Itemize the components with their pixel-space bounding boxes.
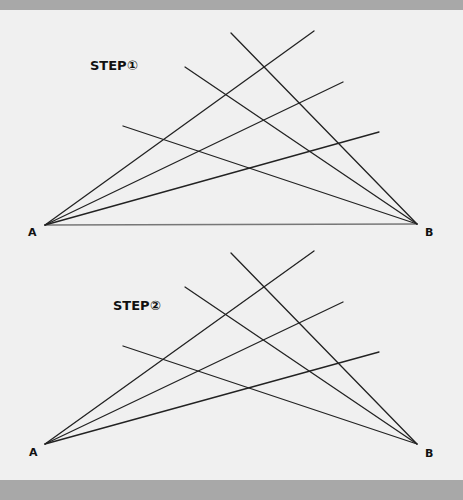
line-to-a-3 [45,132,379,225]
line-to-b-2 [185,287,417,444]
line-to-a-3 [45,352,379,444]
line-to-b-1 [231,253,417,444]
diagram-canvas [0,0,463,500]
line-to-b-1 [231,33,417,224]
step-1-point-a-label: A [28,227,37,238]
step-1-title: STEP① [90,59,138,72]
step-1-point-b-label: B [425,227,433,238]
step-2-figure [45,251,417,444]
step-2-title: STEP② [113,299,161,312]
baseline-ab [45,224,417,225]
line-to-a-1 [45,31,314,225]
line-to-a-2 [45,302,343,444]
line-to-b-3 [123,126,417,224]
line-to-b-2 [185,67,417,224]
step-2-point-b-label: B [425,448,433,459]
line-to-b-3 [123,346,417,444]
line-to-a-2 [45,82,343,225]
step-2-point-a-label: A [29,447,38,458]
